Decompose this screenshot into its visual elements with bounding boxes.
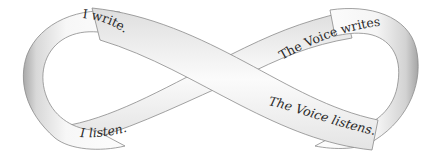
- ribbon-figure-eight: I write. The Voice writes. I listen. The…: [0, 0, 444, 161]
- infinity-diagram: I write. The Voice writes. I listen. The…: [0, 0, 444, 161]
